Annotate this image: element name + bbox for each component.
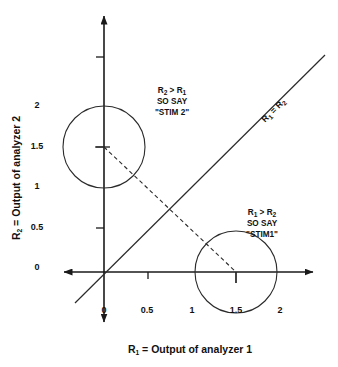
annotation-lower-op: > R [257, 208, 272, 217]
x-tick-label-0: 0 [101, 305, 106, 315]
identity-line-r1-equals-r2 [75, 55, 325, 303]
identity-line-group: R1 = R2 [75, 55, 325, 303]
y-tick-label-1: 1 [34, 181, 39, 191]
x-axis-tick-labels: 0 0.5 1 1.5 2 [101, 305, 282, 315]
x-tick-label-0-5: 0.5 [141, 305, 154, 315]
annotation-upper-op: > R [167, 86, 182, 95]
annotation-lower-line3: "STIM1" [246, 230, 278, 239]
figure-root: R1 = R2 0 0.5 1 1.5 2 0 0.5 1 1.5 2 [0, 0, 338, 367]
x-axis-title: R1 = Output of analyzer 1 [128, 343, 252, 356]
y-axis-title-rest: = Output of analyzer 2 [10, 116, 22, 229]
annotation-lower: R1 > R2 SO SAY "STIM1" [246, 208, 278, 239]
x-tick-label-2: 2 [277, 305, 282, 315]
y-tick-label-0-5: 0.5 [31, 222, 44, 232]
annotation-upper: R2 > R1 SO SAY "STIM 2" [155, 86, 189, 117]
y-axis-title: R2 = Output of analyzer 2 [10, 116, 23, 240]
annotation-upper-line3: "STIM 2" [155, 108, 189, 117]
axis-titles: R1 = Output of analyzer 1 R2 = Output of… [10, 116, 252, 356]
analyzer-decision-diagram: R1 = R2 0 0.5 1 1.5 2 0 0.5 1 1.5 2 [0, 0, 338, 367]
x-tick-label-1: 1 [189, 305, 194, 315]
identity-line-label: R1 = R2 [259, 96, 288, 125]
y-axis-tick-labels: 0 0.5 1 1.5 2 [31, 100, 44, 272]
annotation-lower-line2: SO SAY [247, 219, 278, 228]
annotation-lower-rhs-sub: 2 [273, 211, 277, 218]
annotation-upper-line2: SO SAY [157, 97, 188, 106]
x-axis-title-rest: = Output of analyzer 1 [139, 343, 252, 355]
x-tick-label-1-5: 1.5 [230, 305, 243, 315]
y-tick-label-1-5: 1.5 [31, 141, 44, 151]
annotation-upper-rhs-sub: 1 [183, 89, 187, 96]
annotation-upper-line1: R2 > R1 [158, 86, 187, 96]
y-axis-ticks [96, 57, 110, 228]
x-axis-ticks [148, 272, 236, 283]
annotation-lower-line1: R1 > R2 [248, 208, 277, 218]
y-tick-label-0: 0 [34, 262, 39, 272]
y-tick-label-2: 2 [34, 100, 39, 110]
